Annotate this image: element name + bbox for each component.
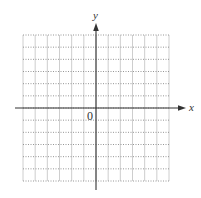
coordinate-plane bbox=[0, 0, 201, 198]
x-axis bbox=[15, 105, 186, 111]
x-axis-label: x bbox=[189, 102, 194, 113]
x-axis-arrow-icon bbox=[178, 105, 186, 111]
y-axis-arrow-icon bbox=[93, 23, 99, 31]
y-axis bbox=[93, 23, 99, 190]
origin-label: 0 bbox=[87, 110, 93, 122]
y-axis-label: y bbox=[93, 10, 98, 21]
